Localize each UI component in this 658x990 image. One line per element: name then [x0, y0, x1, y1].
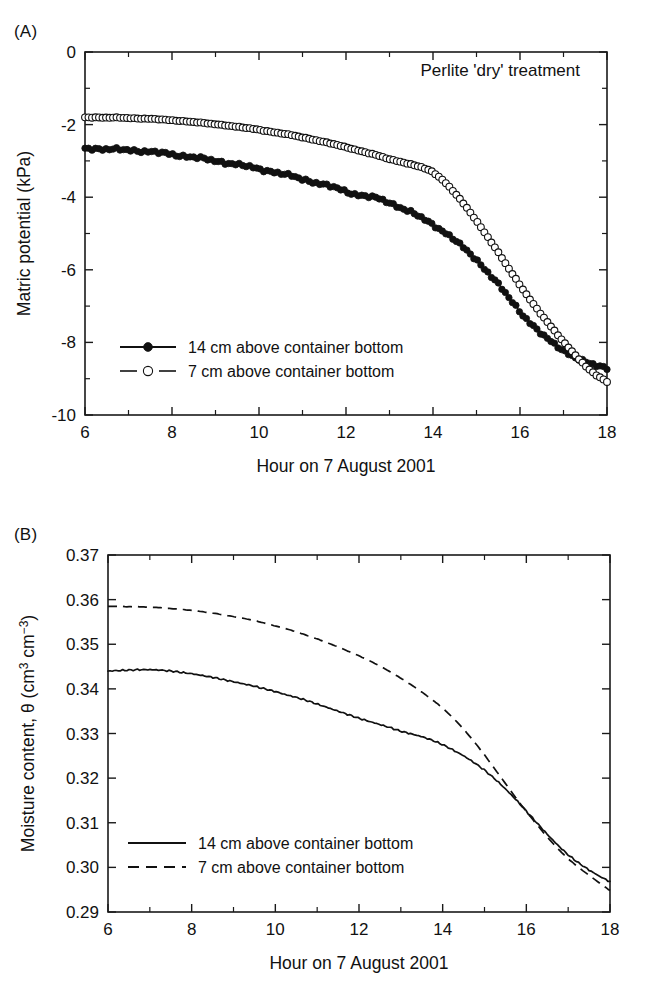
panel-b-ytick-label: 0.33: [66, 725, 99, 744]
panel-a-xtick-label: 14: [424, 423, 443, 442]
panel-b-ytick-label: 0.35: [66, 635, 99, 654]
panel-b-xtick-label: 14: [433, 920, 452, 939]
panel-b-x-axis-title: Hour on 7 August 2001: [269, 953, 448, 973]
panel-b-ytick-label: 0.34: [66, 680, 99, 699]
panel-a-legend-label-14cm: 14 cm above container bottom: [188, 339, 403, 356]
panel-a-ytick-label: -6: [61, 261, 76, 280]
panel-b-ytick-label: 0.30: [66, 858, 99, 877]
panel-a-ytick-label: -10: [51, 406, 76, 425]
panel-b-ytick-label: 0.37: [66, 546, 99, 565]
panel-a-y-axis-title: Matric potential (kPa): [14, 151, 34, 316]
panel-b-xtick-label: 12: [350, 920, 369, 939]
panel-a-legend: 14 cm above container bottom7 cm above c…: [120, 339, 403, 380]
panel-a-legend-marker-filled-circle-icon: [144, 343, 153, 352]
panel-b-label: (B): [14, 525, 37, 545]
panel-a-x-axis-title: Hour on 7 August 2001: [256, 456, 435, 476]
panel-b: (B) 6810121416180.370.360.350.340.330.32…: [0, 495, 658, 990]
panel-b-legend-label-14cm: 14 cm above container bottom: [198, 835, 413, 852]
panel-b-xtick-label: 6: [103, 920, 112, 939]
panel-a-legend-label-7cm: 7 cm above container bottom: [188, 363, 394, 380]
panel-a-xtick-label: 6: [80, 423, 89, 442]
panel-a-xtick-label: 8: [167, 423, 176, 442]
panel-b-ytick-label: 0.32: [66, 769, 99, 788]
panel-b-xtick-label: 16: [517, 920, 536, 939]
panel-b-xtick-label: 10: [266, 920, 285, 939]
panel-b-ytick-label: 0.29: [66, 903, 99, 922]
panel-a-xtick-label: 16: [511, 423, 530, 442]
panel-b-ytick-label: 0.31: [66, 814, 99, 833]
panel-a-label: (A): [14, 22, 37, 42]
panel-a: (A) 6810121416180-2-4-6-8-10Hour on 7 Au…: [0, 0, 658, 495]
panel-b-legend-label-7cm: 7 cm above container bottom: [198, 859, 404, 876]
panel-a-legend-marker-open-circle-icon: [143, 366, 152, 375]
panel-a-ytick-label: 0: [67, 43, 76, 62]
panel-b-ytick-label: 0.36: [66, 591, 99, 610]
panel-a-xtick-label: 12: [337, 423, 356, 442]
panel-a-ytick-label: -2: [61, 116, 76, 135]
panel-a-annotation: Perlite 'dry' treatment: [420, 61, 580, 80]
panel-b-xtick-label: 8: [187, 920, 196, 939]
panel-b-xtick-label: 18: [601, 920, 620, 939]
panel-a-xtick-label: 10: [250, 423, 269, 442]
panel-a-ytick-label: -8: [61, 333, 76, 352]
figure-container: (A) 6810121416180-2-4-6-8-10Hour on 7 Au…: [0, 0, 658, 990]
panel-a-plot: 6810121416180-2-4-6-8-10Hour on 7 August…: [0, 0, 658, 495]
panel-b-plot: 6810121416180.370.360.350.340.330.320.31…: [0, 495, 658, 990]
panel-a-ytick-label: -4: [61, 188, 76, 207]
panel-a-xtick-label: 18: [598, 423, 617, 442]
panel-b-y-axis-title: Moisture content, θ (cm3 cm−3): [17, 615, 38, 852]
panel-b-legend: 14 cm above container bottom7 cm above c…: [128, 835, 413, 876]
